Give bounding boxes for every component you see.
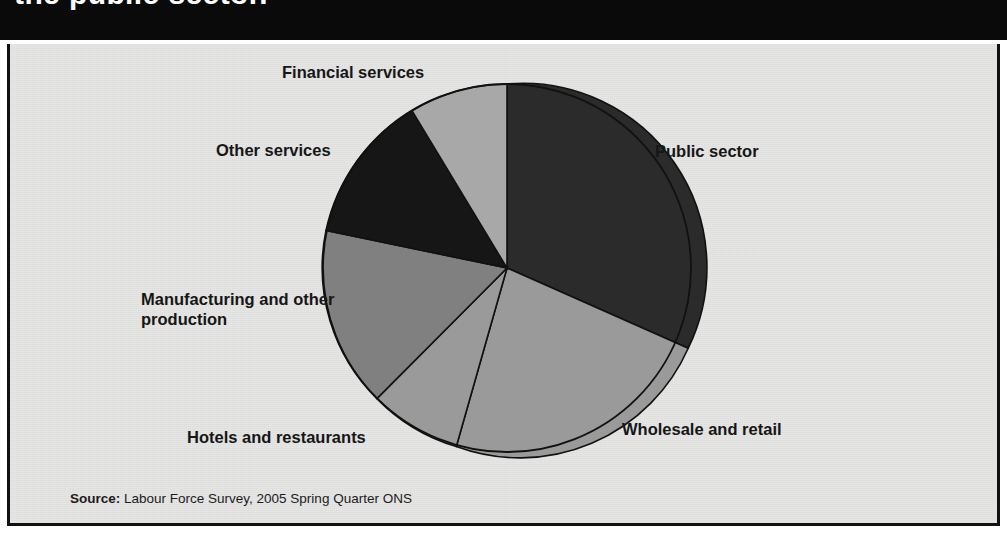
pie-label-wholesale-retail: Wholesale and retail [622, 419, 782, 439]
pie-chart-svg [10, 44, 1000, 526]
source-text: Labour Force Survey, 2005 Spring Quarter… [120, 491, 412, 506]
title-banner: the public sector. [0, 0, 1007, 40]
source-note: Source: Labour Force Survey, 2005 Spring… [70, 491, 412, 506]
pie-label-public-sector: Public sector [655, 141, 759, 161]
chart-screenshot: the public sector. Fina [0, 0, 1007, 535]
pie-label-financial-services: Financial services [282, 62, 424, 82]
pie-label-manufacturing: Manufacturing and other production [141, 289, 341, 329]
pie-chart: Financial services Other services Manufa… [10, 44, 1000, 526]
chart-panel: Financial services Other services Manufa… [7, 44, 1000, 526]
pie-label-other-services: Other services [216, 140, 331, 160]
pie-label-hotels-restaurants: Hotels and restaurants [187, 427, 366, 447]
source-label: Source: [70, 491, 120, 506]
page-title: the public sector. [14, 0, 268, 11]
